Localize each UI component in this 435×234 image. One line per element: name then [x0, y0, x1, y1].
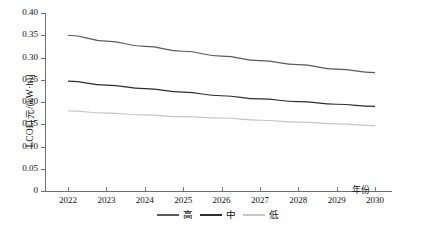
legend-label: 中 — [226, 209, 236, 221]
legend-swatch — [200, 214, 222, 216]
series-line-高 — [68, 35, 375, 72]
chart-figure: LCOE[元/(kW·h)] 00.050.100.150.200.250.30… — [0, 0, 435, 234]
legend-label: 高 — [183, 209, 193, 221]
x-tick-label: 2028 — [289, 195, 307, 206]
y-tick-label: 0.30 — [22, 52, 38, 63]
legend-swatch — [243, 214, 265, 216]
x-tick-label: 2030 — [366, 195, 384, 206]
x-tick-label: 2023 — [97, 195, 115, 206]
series-lines — [45, 13, 392, 192]
y-tick-label: 0.10 — [22, 141, 38, 152]
x-tick-label: 2026 — [213, 195, 231, 206]
series-line-中 — [68, 81, 375, 106]
legend-label: 低 — [269, 209, 279, 221]
legend-item-低[interactable]: 低 — [243, 209, 279, 221]
y-tick-label: 0.25 — [22, 74, 38, 85]
series-line-低 — [68, 111, 375, 126]
y-tick-label: 0.15 — [22, 118, 38, 129]
legend-item-中[interactable]: 中 — [200, 209, 236, 221]
y-tick-label: 0.40 — [22, 7, 38, 18]
x-tick-label: 2024 — [136, 195, 154, 206]
x-tick-label: 2029 — [328, 195, 346, 206]
legend-item-高[interactable]: 高 — [157, 209, 193, 221]
y-tick-label: 0 — [34, 185, 39, 196]
y-tick-label: 0.05 — [22, 163, 38, 174]
x-tick-label: 2027 — [251, 195, 269, 206]
x-tick-label: 2025 — [174, 195, 192, 206]
x-tick-label: 2022 — [59, 195, 77, 206]
y-tick-label: 0.20 — [22, 96, 38, 107]
plot-area: 00.050.100.150.200.250.300.350.40 202220… — [45, 13, 392, 192]
x-axis-title: 年份 — [352, 183, 370, 196]
chart-legend: 高中低 — [0, 209, 435, 221]
y-tick-label: 0.35 — [22, 29, 38, 40]
legend-swatch — [157, 214, 179, 216]
